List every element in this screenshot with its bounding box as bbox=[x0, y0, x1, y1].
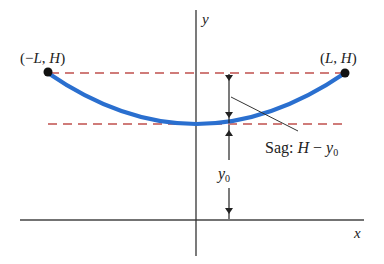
y0-label: y0 bbox=[218, 166, 230, 184]
right-support-point bbox=[341, 69, 350, 78]
y-axis-label: y bbox=[202, 12, 209, 27]
sag-label: Sag: H − y0 bbox=[265, 140, 338, 158]
catenary-diagram: (−L, H) (L, H) y x Sag: H − y0 y0 bbox=[0, 0, 384, 264]
sag-label-pointer bbox=[231, 97, 298, 131]
right-point-label: (L, H) bbox=[320, 51, 357, 66]
diagram-graphics bbox=[0, 0, 384, 264]
x-axis-label: x bbox=[354, 226, 361, 241]
left-point-label: (−L, H) bbox=[20, 51, 65, 66]
left-support-point bbox=[44, 68, 53, 77]
